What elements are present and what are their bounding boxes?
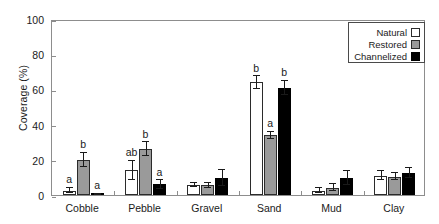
bar-channelized: [278, 88, 291, 195]
error-bar: [97, 194, 98, 195]
legend-label-channelized: Channelized: [354, 51, 407, 62]
x-axis-label-mud: Mud: [297, 202, 367, 214]
error-bar: [208, 185, 209, 188]
bar-group: aba: [63, 21, 104, 195]
y-tick-label: 60: [4, 84, 44, 96]
x-tick-mark: [177, 191, 178, 195]
y-tick-label: 20: [4, 155, 44, 167]
error-bar-cap: [253, 75, 260, 76]
bar-natural: [250, 82, 263, 195]
error-bar-cap: [218, 169, 225, 170]
error-bar: [409, 173, 410, 178]
error-bar: [270, 135, 271, 139]
error-bar: [194, 185, 195, 187]
legend-label-natural: Natural: [376, 27, 407, 38]
significance-letter: a: [87, 180, 107, 191]
significance-letter: a: [150, 167, 170, 178]
error-bar: [256, 82, 257, 88]
significance-letter: b: [136, 129, 156, 140]
error-bar-cap: [329, 183, 336, 184]
error-bar: [132, 170, 133, 180]
bar-restored: [264, 135, 277, 195]
y-tick-mark: [52, 21, 56, 22]
error-bar: [160, 184, 161, 188]
error-bar-cap: [128, 160, 135, 161]
bar-group: bab: [250, 21, 291, 195]
y-tick-mark: [52, 126, 56, 127]
x-tick-mark: [114, 191, 115, 195]
error-bar: [83, 153, 84, 160]
bar-group: [187, 21, 228, 195]
error-bar-cap: [343, 170, 350, 171]
bar-group: [312, 21, 353, 195]
error-bar-cap: [281, 80, 288, 81]
legend-item-natural: Natural: [349, 26, 420, 38]
error-bar: [284, 88, 285, 95]
error-bar-cap: [377, 170, 384, 171]
significance-letter: b: [246, 63, 266, 74]
error-bar: [347, 178, 348, 185]
legend-item-restored: Restored: [349, 38, 420, 50]
error-bar-cap: [156, 179, 163, 180]
legend-swatch-natural: [411, 28, 420, 37]
legend-swatch-channelized: [411, 52, 420, 61]
legend-swatch-restored: [411, 40, 420, 49]
error-bar: [222, 178, 223, 186]
x-axis-label-cobble: Cobble: [47, 202, 117, 214]
error-bar: [395, 177, 396, 181]
y-tick-mark: [52, 91, 56, 92]
bar-group: abba: [125, 21, 166, 195]
error-bar-cap: [66, 187, 73, 188]
y-tick-label: 0: [4, 190, 44, 202]
error-bar-cap: [190, 182, 197, 183]
error-bar: [319, 191, 320, 194]
error-bar: [284, 81, 285, 88]
x-tick-mark: [364, 191, 365, 195]
y-tick-mark: [52, 161, 56, 162]
legend: Natural Restored Channelized: [348, 22, 425, 63]
error-bar-cap: [315, 187, 322, 188]
y-tick-mark: [52, 197, 56, 198]
error-bar-cap: [405, 167, 412, 168]
error-bar-cap: [80, 152, 87, 153]
error-bar-cap: [142, 141, 149, 142]
x-tick-mark: [239, 191, 240, 195]
y-tick-label: 100: [4, 14, 44, 26]
y-tick-label: 40: [4, 120, 44, 132]
x-axis-label-sand: Sand: [234, 202, 304, 214]
error-bar-cap: [391, 172, 398, 173]
figure: Coverage (%) 020406080100abaabbabab Natu…: [0, 0, 439, 224]
error-bar: [333, 188, 334, 192]
error-bar-cap: [267, 131, 274, 132]
error-bar-cap: [204, 182, 211, 183]
x-axis-label-pebble: Pebble: [110, 202, 180, 214]
error-bar: [222, 170, 223, 178]
error-bar: [347, 171, 348, 178]
x-tick-mark: [301, 191, 302, 195]
error-bar: [381, 176, 382, 180]
x-axis-label-gravel: Gravel: [172, 202, 242, 214]
y-tick-mark: [52, 56, 56, 57]
y-tick-label: 80: [4, 49, 44, 61]
legend-label-restored: Restored: [368, 39, 407, 50]
legend-item-channelized: Channelized: [349, 50, 420, 62]
significance-letter: b: [274, 67, 294, 78]
significance-letter: b: [73, 139, 93, 150]
error-bar: [146, 149, 147, 156]
error-bar: [132, 161, 133, 171]
x-axis-label-clay: Clay: [359, 202, 429, 214]
error-bar: [146, 142, 147, 149]
error-bar: [83, 160, 84, 167]
error-bar: [69, 191, 70, 194]
